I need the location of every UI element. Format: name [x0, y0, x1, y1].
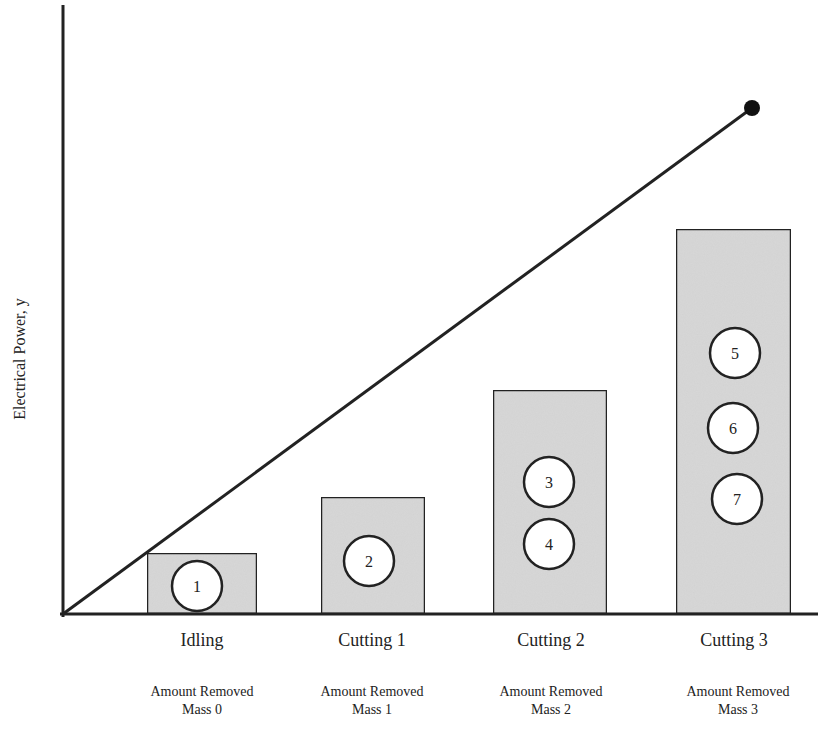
marker-label-3: 3 — [534, 468, 564, 498]
category-subtitle-cutting-2: Amount Removed Mass 2 — [466, 683, 636, 719]
subtitle-line-1: Amount Removed — [653, 683, 820, 701]
category-subtitle-cutting-1: Amount Removed Mass 1 — [287, 683, 457, 719]
category-label-cutting-1: Cutting 1 — [292, 630, 452, 651]
subtitle-line-1: Amount Removed — [287, 683, 457, 701]
marker-label-2: 2 — [354, 547, 384, 577]
subtitle-line-2: Mass 1 — [287, 701, 457, 719]
subtitle-line-1: Amount Removed — [117, 683, 287, 701]
subtitle-line-2: Mass 3 — [653, 701, 820, 719]
marker-label-6: 6 — [718, 414, 748, 444]
category-subtitle-cutting-3: Amount Removed Mass 3 — [653, 683, 820, 719]
diagram-canvas — [0, 0, 820, 733]
marker-label-7: 7 — [722, 485, 752, 515]
category-label-cutting-2: Cutting 2 — [471, 630, 631, 651]
subtitle-line-2: Mass 2 — [466, 701, 636, 719]
category-label-cutting-3: Cutting 3 — [654, 630, 814, 651]
marker-label-5: 5 — [720, 339, 750, 369]
category-label-idling: Idling — [122, 630, 282, 651]
marker-label-4: 4 — [534, 530, 564, 560]
marker-label-1: 1 — [182, 572, 212, 602]
subtitle-line-1: Amount Removed — [466, 683, 636, 701]
category-subtitle-idling: Amount Removed Mass 0 — [117, 683, 287, 719]
subtitle-line-2: Mass 0 — [117, 701, 287, 719]
y-axis-label: Electrical Power, y — [11, 269, 29, 449]
trend-line-end-dot — [744, 100, 760, 116]
